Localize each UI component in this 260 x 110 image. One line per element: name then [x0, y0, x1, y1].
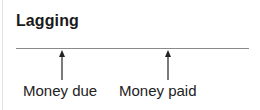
marker-label-money-paid: Money paid — [119, 82, 197, 99]
arrow-up-icon — [165, 50, 171, 80]
marker-label-money-due: Money due — [23, 82, 97, 99]
arrow-up-icon — [59, 50, 65, 80]
